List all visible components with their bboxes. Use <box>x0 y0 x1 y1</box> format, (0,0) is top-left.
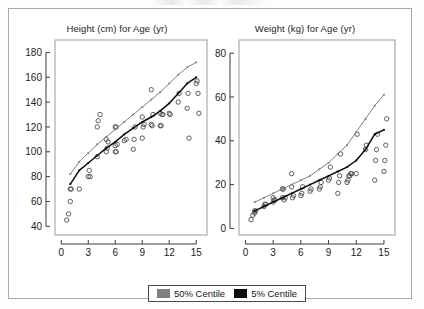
y-axis-tick-label: 40 <box>215 135 227 146</box>
panel-weight-title: Weight (kg) for Age (yr) <box>209 23 401 34</box>
centile-marker <box>87 162 89 164</box>
centile-marker <box>150 99 152 101</box>
figure-border: Height (cm) for Age (yr) 406080100120140… <box>8 8 412 299</box>
centile-marker <box>309 184 311 186</box>
y-axis-tick-label: 60 <box>31 196 43 207</box>
centile-marker <box>186 66 188 68</box>
centile-marker <box>168 83 170 85</box>
centile-marker <box>114 141 116 143</box>
legend-label-5-centile: 5% Centile <box>251 288 297 299</box>
x-axis-tick-label: 12 <box>164 247 176 258</box>
centile-marker <box>272 201 274 203</box>
centile-marker <box>337 153 339 155</box>
centile-marker <box>69 183 71 185</box>
legend-item-5-centile: 5% Centile <box>234 288 297 299</box>
centile-marker <box>291 184 293 186</box>
centile-marker <box>328 162 330 164</box>
x-axis-tick-label: 6 <box>112 247 118 258</box>
centile-marker <box>281 188 283 190</box>
centile-marker <box>96 155 98 157</box>
panel-height: Height (cm) for Age (yr) 406080100120140… <box>21 23 213 269</box>
y-axis-tick-label: 80 <box>215 48 227 59</box>
plot-frame <box>239 40 395 235</box>
centile-marker <box>168 102 170 104</box>
legend-item-50-centile: 50% Centile <box>157 288 225 299</box>
centile-marker <box>105 147 107 149</box>
centile-marker <box>263 206 265 208</box>
x-axis-tick-label: 0 <box>243 247 249 258</box>
centile-marker <box>195 61 197 63</box>
centile-marker <box>337 171 339 173</box>
centile-marker <box>186 83 188 85</box>
centile-marker <box>355 131 357 133</box>
x-axis-tick-label: 0 <box>59 247 65 258</box>
y-axis-tick-label: 120 <box>25 122 42 133</box>
scan-artifact <box>150 0 270 5</box>
centile-marker <box>374 133 376 135</box>
x-axis-tick-label: 12 <box>351 247 363 258</box>
centile-marker <box>78 170 80 172</box>
centile-marker <box>281 197 283 199</box>
centile-marker <box>123 121 125 123</box>
centile-marker <box>87 152 89 154</box>
centile-marker <box>346 166 348 168</box>
centile-marker <box>300 188 302 190</box>
centile-marker <box>365 149 367 151</box>
y-axis-tick-label: 60 <box>215 92 227 103</box>
x-axis-tick-label: 15 <box>191 247 203 258</box>
centile-marker <box>328 175 330 177</box>
centile-marker <box>96 143 98 145</box>
y-axis-tick-label: 40 <box>31 221 43 232</box>
y-axis-tick-label: 160 <box>25 72 42 83</box>
centile-marker <box>159 91 161 93</box>
panel-weight: Weight (kg) for Age (yr) 020406080036912… <box>209 23 401 269</box>
centile-marker <box>346 144 348 146</box>
centile-marker <box>318 179 320 181</box>
centile-marker <box>272 192 274 194</box>
centile-marker <box>132 114 134 116</box>
centile-marker <box>177 93 179 95</box>
y-axis-tick-label: 80 <box>31 171 43 182</box>
centile-marker <box>365 118 367 120</box>
centile-marker <box>291 192 293 194</box>
centile-marker <box>318 168 320 170</box>
centile-marker <box>254 201 256 203</box>
centile-marker <box>309 175 311 177</box>
centile-marker <box>300 179 302 181</box>
centile-marker <box>383 129 385 131</box>
x-axis-tick-label: 3 <box>270 247 276 258</box>
centile-marker <box>150 116 152 118</box>
centile-marker <box>105 136 107 138</box>
centile-marker <box>159 110 161 112</box>
y-axis-tick-label: 180 <box>25 47 42 58</box>
weight-for-age-scatter-plot: 02040608003691215 <box>209 36 401 268</box>
x-axis-tick-label: 6 <box>298 247 304 258</box>
chart-legend: 50% Centile 5% Centile <box>148 285 306 302</box>
centile-marker <box>123 133 125 135</box>
height-for-age-scatter-plot: 40608010012014016018003691215 <box>21 36 213 268</box>
centile-marker <box>141 106 143 108</box>
centile-marker <box>383 94 385 96</box>
y-axis-tick-label: 100 <box>25 146 42 157</box>
centile-marker <box>78 161 80 163</box>
centile-marker <box>263 197 265 199</box>
centile-marker <box>132 127 134 129</box>
x-axis-tick-label: 3 <box>85 247 91 258</box>
centile-marker <box>355 160 357 162</box>
figure-root: Height (cm) for Age (yr) 406080100120140… <box>0 0 424 309</box>
x-axis-tick-label: 9 <box>139 247 145 258</box>
centile-marker <box>141 121 143 123</box>
x-axis-tick-label: 9 <box>326 247 332 258</box>
y-axis-tick-label: 140 <box>25 97 42 108</box>
x-axis-tick-label: 15 <box>378 247 390 258</box>
centile-marker <box>69 173 71 175</box>
y-axis-tick-label: 20 <box>215 179 227 190</box>
legend-label-50-centile: 50% Centile <box>174 288 225 299</box>
legend-swatch-5-centile <box>234 289 247 298</box>
legend-swatch-50-centile <box>157 289 170 298</box>
y-axis-tick-label: 0 <box>220 223 226 234</box>
centile-marker <box>374 105 376 107</box>
centile-marker <box>195 76 197 78</box>
centile-marker <box>114 129 116 131</box>
panel-height-title: Height (cm) for Age (yr) <box>21 23 213 34</box>
